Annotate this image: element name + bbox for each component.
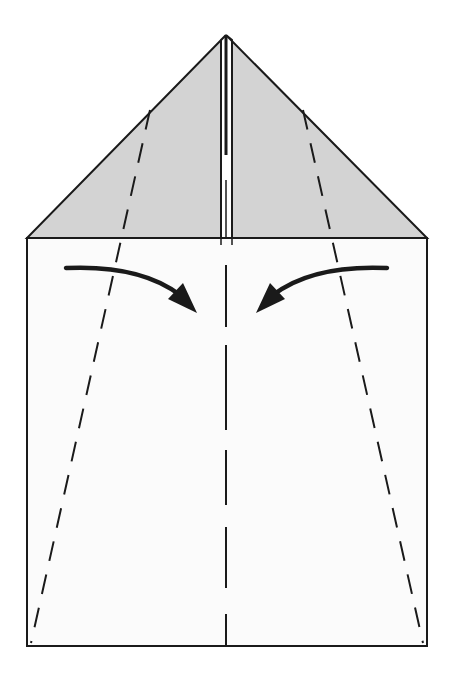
folded-triangle-flaps	[27, 35, 427, 245]
origami-diagram	[0, 0, 449, 683]
diagram-canvas	[0, 0, 449, 683]
